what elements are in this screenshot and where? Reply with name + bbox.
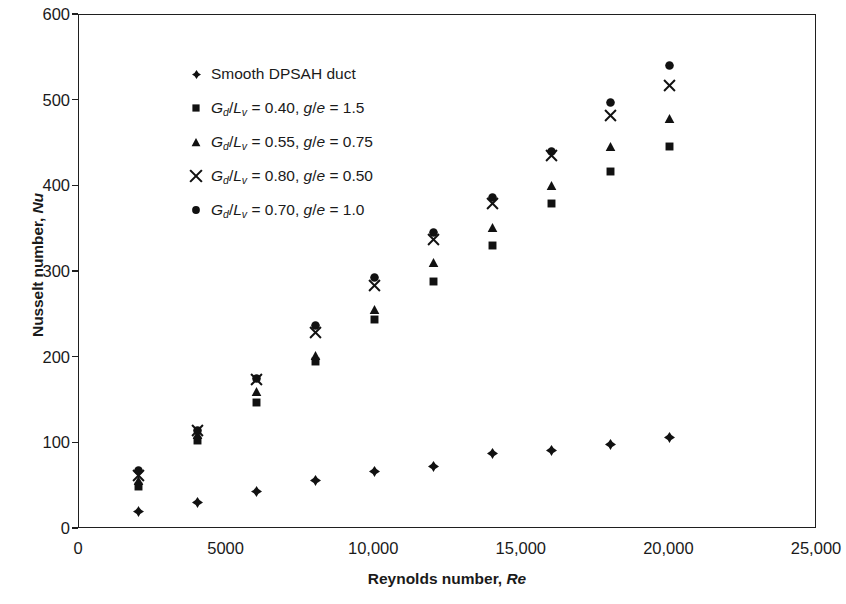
legend-marker-circle-icon [183,205,209,215]
y-axis-tick-label: 100 [4,434,70,451]
x-axis-tick-label: 20,000 [623,540,713,557]
data-point [428,257,439,268]
data-point [428,276,439,287]
data-point [251,486,262,497]
data-point [369,304,380,315]
legend-item: Gd/Lv = 0.80, g/e = 0.50 [183,159,473,193]
y-axis-tick-label: 400 [4,177,70,194]
data-point [605,141,616,152]
x-axis-tick-label: 25,000 [771,540,846,557]
data-point [310,475,321,486]
data-point [604,109,617,122]
data-point [663,79,676,92]
x-axis-tick-label: 15,000 [476,540,566,557]
data-point [664,141,675,152]
data-point [487,448,498,459]
data-point [546,180,557,191]
y-axis-tick-label: 500 [4,92,70,109]
legend-label: Gd/Lv = 0.55, g/e = 0.75 [209,133,373,152]
data-point [428,227,439,238]
legend-marker-triangle-icon [183,137,209,147]
data-point [251,373,262,384]
legend-item: Gd/Lv = 0.55, g/e = 0.75 [183,125,473,159]
data-point [133,506,144,517]
legend-label: Smooth DPSAH duct [209,65,356,83]
legend-marker-diamond-icon [183,70,209,79]
y-axis-tick-label: 600 [4,6,70,23]
y-axis-tick-label: 0 [4,520,70,537]
data-point [487,192,498,203]
data-point [487,222,498,233]
legend-item: Gd/Lv = 0.40, g/e = 1.5 [183,91,473,125]
x-axis-tick-label: 5000 [181,540,271,557]
data-point [310,320,321,331]
chart-legend: Smooth DPSAH ductGd/Lv = 0.40, g/e = 1.5… [183,57,473,227]
x-axis-tick-label: 0 [33,540,123,557]
data-point [605,439,616,450]
y-axis-tick-label: 300 [4,263,70,280]
data-point [487,240,498,251]
data-point [251,397,262,408]
data-point [369,314,380,325]
x-axis-title-symbol: Re [506,570,526,587]
plot-area: Smooth DPSAH ductGd/Lv = 0.40, g/e = 1.5… [78,14,816,528]
data-point [369,466,380,477]
legend-label: Gd/Lv = 0.40, g/e = 1.5 [209,99,364,118]
data-point [251,386,262,397]
data-point [546,146,557,157]
data-point [605,97,616,108]
x-axis-tick-label: 10,000 [328,540,418,557]
y-axis-tick-label: 200 [4,349,70,366]
data-point [369,272,380,283]
data-point [192,425,203,436]
legend-item: Gd/Lv = 0.70, g/e = 1.0 [183,193,473,227]
data-point [310,350,321,361]
data-point [133,465,144,476]
data-point [664,113,675,124]
x-axis-title: Reynolds number, Re [78,570,816,588]
legend-item: Smooth DPSAH duct [183,57,473,91]
data-point [664,60,675,71]
legend-marker-square-icon [183,103,209,113]
legend-label: Gd/Lv = 0.70, g/e = 1.0 [209,201,364,220]
data-point [428,461,439,472]
data-point [546,445,557,456]
data-point [605,166,616,177]
y-axis-title-symbol: Nu [29,193,46,213]
data-point [192,497,203,508]
data-point [546,198,557,209]
x-axis-title-text: Reynolds number, [368,570,507,587]
legend-label: Gd/Lv = 0.80, g/e = 0.50 [209,167,373,186]
legend-marker-cross-icon [183,169,209,183]
data-point [664,432,675,443]
